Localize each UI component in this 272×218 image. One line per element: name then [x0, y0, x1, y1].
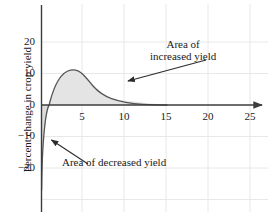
y-tick-20: 20 — [5, 36, 35, 47]
y-tick-neg20: −20 — [1, 162, 35, 173]
y-tick-10: 10 — [5, 67, 35, 78]
x-tick-20: 20 — [196, 111, 220, 122]
annotation-increased-yield: Area of increased yield — [150, 38, 216, 63]
crop-yield-chart-figure: Percent change in crop yield 20 10 0 −10… — [0, 0, 272, 218]
gridlines-vertical — [82, 4, 250, 212]
annotation-decreased-yield: Area of decreased yield — [62, 156, 166, 168]
y-tick-neg10: −10 — [1, 130, 35, 141]
x-tick-5: 5 — [70, 111, 94, 122]
increased-yield-arrow — [128, 60, 206, 81]
annotation-increased-yield-line2: increased yield — [150, 50, 216, 62]
x-tick-10: 10 — [112, 111, 136, 122]
y-tick-0: 0 — [5, 99, 35, 110]
x-tick-25: 25 — [238, 111, 262, 122]
annotation-increased-yield-line1: Area of — [150, 38, 216, 50]
chart-plot-area — [0, 0, 272, 218]
x-tick-15: 15 — [154, 111, 178, 122]
